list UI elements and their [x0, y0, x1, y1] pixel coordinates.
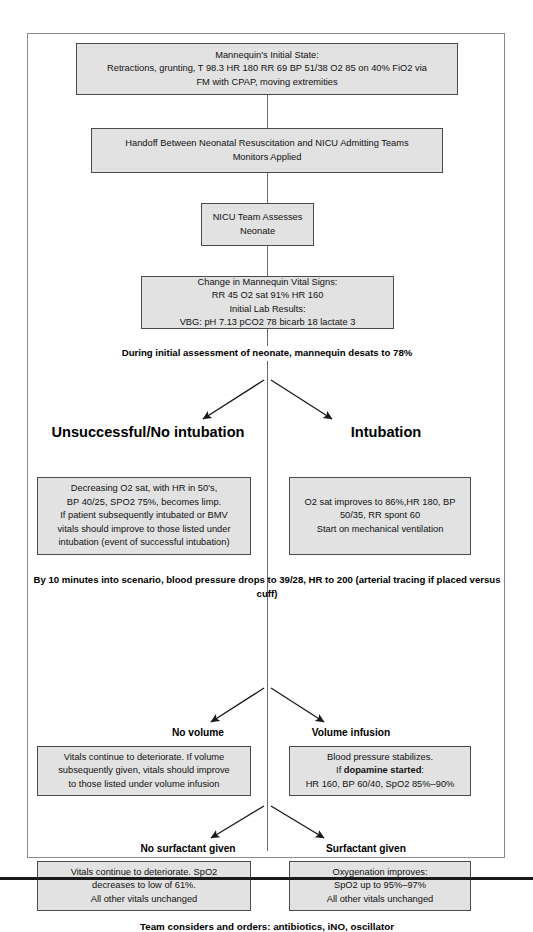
- node-vitals-change: Change in Mannequin Vital Signs: RR 45 O…: [141, 276, 394, 329]
- vitals-line4: VBG: pH 7.13 pCO2 78 bicarb 18 lactate 3: [147, 316, 388, 329]
- node-volume-infusion-outcome: Blood pressure stabilizes. If dopamine s…: [289, 746, 471, 796]
- node-no-intubation-outcome: Decreasing O2 sat, with HR in 50's, BP 4…: [37, 477, 251, 555]
- vitals-line2: RR 45 O2 sat 91% HR 160: [147, 289, 388, 302]
- volume-infusion-line3: HR 160, BP 60/40, SpO2 85%–90%: [295, 778, 465, 791]
- node-intubation-outcome: O2 sat improves to 86%,HR 180, BP 50/35,…: [289, 477, 471, 555]
- vitals-line3: Initial Lab Results:: [147, 303, 388, 316]
- connector-volume-to-surfactant: [267, 789, 268, 851]
- intubation-line2: 50/35, RR spont 60: [295, 509, 465, 522]
- node-nicu-assess: NICU Team Assesses Neonate: [201, 203, 314, 246]
- handoff-line2: Monitors Applied: [97, 151, 437, 164]
- volume-infusion-line1: Blood pressure stabilizes.: [295, 751, 465, 764]
- node-handoff: Handoff Between Neonatal Resuscitation a…: [91, 128, 443, 173]
- no-intubation-line4: vitals should improve to those listed un…: [43, 523, 245, 536]
- flowchart-canvas: Mannequin's Initial State: Retractions, …: [28, 34, 506, 859]
- branch-label-intubation: Intubation: [276, 424, 496, 440]
- branch-label-no-volume: No volume: [123, 727, 273, 738]
- connector-branch-to-boxes: [267, 464, 268, 576]
- no-surfactant-line2: decreases to low of 61%.: [43, 879, 245, 892]
- surfactant-line3: All other vitals unchanged: [295, 893, 465, 906]
- connector-handoff-to-assess: [267, 173, 268, 203]
- initial-state-line2: Retractions, grunting, T 98.3 HR 180 RR …: [82, 62, 452, 75]
- intubation-line1: O2 sat improves to 86%,HR 180, BP: [295, 496, 465, 509]
- node-surfactant-outcome: Oxygenation improves: SpO2 up to 95%–97%…: [289, 861, 471, 911]
- vitals-line1: Change in Mannequin Vital Signs:: [147, 276, 388, 289]
- bottom-rule: [0, 877, 533, 880]
- no-volume-line1: Vitals continue to deteriorate. If volum…: [43, 751, 245, 764]
- assess-line1: NICU Team Assesses: [207, 211, 308, 224]
- connector-desat-to-branch: [267, 361, 268, 464]
- connector-initial-to-handoff: [267, 95, 268, 128]
- branch-label-volume-infusion: Volume infusion: [276, 727, 426, 738]
- volume-infusion-dopamine-bold: dopamine started: [344, 765, 422, 775]
- footer-team-orders: Team considers and orders: antibiotics, …: [28, 921, 506, 932]
- branch-label-unsuccessful-intubation: Unsuccessful/No intubation: [38, 424, 258, 440]
- node-no-surfactant-outcome: Vitals continue to deteriorate. SpO2 dec…: [37, 861, 251, 911]
- volume-infusion-line2-suffix: :: [421, 765, 424, 775]
- diagram-frame: Mannequin's Initial State: Retractions, …: [27, 33, 505, 858]
- handoff-line1: Handoff Between Neonatal Resuscitation a…: [97, 137, 437, 150]
- branch-label-no-surfactant: No surfactant given: [98, 843, 278, 854]
- no-volume-line2: subsequently given, vitals should improv…: [43, 764, 245, 777]
- intubation-line3: Start on mechanical ventilation: [295, 523, 465, 536]
- connector-assess-to-vitals: [267, 246, 268, 276]
- transition-bp-drop: By 10 minutes into scenario, blood press…: [28, 573, 506, 600]
- no-intubation-line3: If patient subsequently intubated or BMV: [43, 509, 245, 522]
- volume-infusion-line2: If dopamine started:: [295, 764, 465, 777]
- no-intubation-line1: Decreasing O2 sat, with HR in 50's,: [43, 482, 245, 495]
- no-surfactant-line3: All other vitals unchanged: [43, 893, 245, 906]
- transition-desat: During initial assessment of neonate, ma…: [28, 346, 506, 360]
- node-no-volume-outcome: Vitals continue to deteriorate. If volum…: [37, 746, 251, 796]
- branch-label-surfactant: Surfactant given: [276, 843, 456, 854]
- no-volume-line3: to those listed under volume infusion: [43, 778, 245, 791]
- bp-drop-line1: By 10 minutes into scenario, blood press…: [33, 574, 352, 585]
- no-intubation-line2: BP 40/25, SPO2 75%, becomes limp.: [43, 496, 245, 509]
- volume-infusion-line2-prefix: If: [336, 765, 344, 775]
- initial-state-line1: Mannequin's Initial State:: [82, 49, 452, 62]
- connector-vitals-to-desat: [267, 329, 268, 346]
- no-intubation-line5: intubation (event of successful intubati…: [43, 536, 245, 549]
- node-initial-state: Mannequin's Initial State: Retractions, …: [76, 43, 458, 95]
- assess-line2: Neonate: [207, 225, 308, 238]
- surfactant-line2: SpO2 up to 95%–97%: [295, 879, 465, 892]
- initial-state-line3: FM with CPAP, moving extremities: [82, 76, 452, 89]
